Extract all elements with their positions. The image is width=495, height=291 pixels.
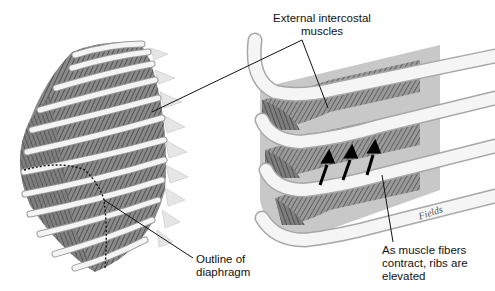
- label-outline-diaphragm: Outline of diaphragm: [196, 253, 250, 279]
- rib-cage-figure: [20, 42, 188, 272]
- label-line: External intercostal: [262, 12, 382, 25]
- label-external-intercostal: External intercostal muscles: [262, 12, 382, 38]
- label-line: elevated: [382, 270, 468, 283]
- label-line: diaphragm: [196, 266, 250, 279]
- label-line: Outline of: [196, 253, 250, 266]
- label-line: As muscle fibers: [382, 244, 468, 257]
- label-line: muscles: [262, 25, 382, 38]
- intercostal-closeup-figure: [254, 40, 495, 240]
- label-fibers-contract: As muscle fibers contract, ribs are elev…: [382, 244, 468, 283]
- label-line: contract, ribs are: [382, 257, 468, 270]
